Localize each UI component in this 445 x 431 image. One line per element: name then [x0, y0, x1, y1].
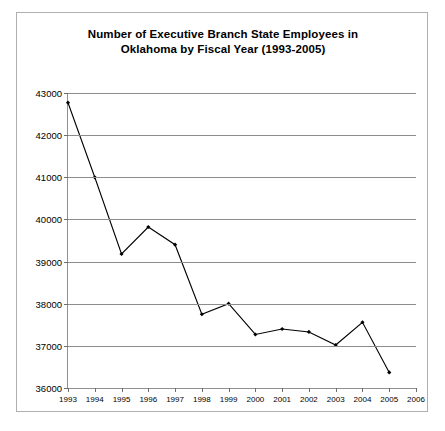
y-axis-tick-label: 40000 — [36, 214, 62, 225]
data-point-marker — [280, 327, 284, 331]
x-axis-tick-label: 1995 — [113, 395, 131, 404]
x-axis-tick — [202, 388, 203, 392]
y-axis-tick — [64, 135, 68, 136]
data-series-line — [68, 93, 416, 388]
x-axis-tick-label: 1996 — [139, 395, 157, 404]
x-axis-tick — [309, 388, 310, 392]
y-axis-tick-label: 38000 — [36, 298, 62, 309]
y-axis-tick — [64, 177, 68, 178]
data-point-marker — [387, 370, 391, 374]
x-axis-tick-label: 2004 — [354, 395, 372, 404]
y-axis-tick — [64, 304, 68, 305]
data-point-marker — [200, 312, 204, 316]
y-axis-tick — [64, 262, 68, 263]
chart-title-line-2: Oklahoma by Fiscal Year (1993-2005) — [17, 42, 429, 57]
y-axis-tick — [64, 219, 68, 220]
gridline-horizontal — [68, 304, 416, 305]
plot-area: 4300042000410004000039000380003700036000… — [67, 93, 416, 389]
x-axis-tick — [175, 388, 176, 392]
gridline-horizontal — [68, 219, 416, 220]
x-axis-tick-label: 2003 — [327, 395, 345, 404]
x-axis-tick — [362, 388, 363, 392]
y-axis-tick-label: 43000 — [36, 88, 62, 99]
x-axis-tick-label: 1994 — [86, 395, 104, 404]
y-axis-tick — [64, 346, 68, 347]
x-axis-tick-label: 1998 — [193, 395, 211, 404]
y-axis-tick-label: 41000 — [36, 172, 62, 183]
x-axis-tick — [416, 388, 417, 392]
gridline-horizontal — [68, 135, 416, 136]
chart-title-line-1: Number of Executive Branch State Employe… — [17, 27, 429, 42]
y-axis-tick-label: 39000 — [36, 256, 62, 267]
series-line-employees — [68, 103, 389, 373]
gridline-horizontal — [68, 346, 416, 347]
x-axis-tick — [122, 388, 123, 392]
x-axis-tick-label: 2000 — [246, 395, 264, 404]
x-axis-tick — [229, 388, 230, 392]
chart-title: Number of Executive Branch State Employe… — [17, 27, 429, 57]
x-axis-tick — [336, 388, 337, 392]
x-axis-tick — [389, 388, 390, 392]
x-axis-tick — [282, 388, 283, 392]
y-axis-tick-label: 37000 — [36, 340, 62, 351]
gridline-horizontal — [68, 262, 416, 263]
x-axis-tick-label: 1993 — [59, 395, 77, 404]
x-axis-tick — [68, 388, 69, 392]
y-axis-tick-label: 42000 — [36, 130, 62, 141]
x-axis-tick-label: 2006 — [407, 395, 425, 404]
x-axis-tick — [255, 388, 256, 392]
y-axis-tick-label: 36000 — [36, 383, 62, 394]
data-point-marker — [66, 101, 70, 105]
x-axis-tick-label: 2005 — [380, 395, 398, 404]
x-axis-tick-label: 1999 — [220, 395, 238, 404]
x-axis-tick-label: 1997 — [166, 395, 184, 404]
data-point-marker — [307, 330, 311, 334]
x-axis-tick — [95, 388, 96, 392]
x-axis-tick-label: 2001 — [273, 395, 291, 404]
chart-container: Number of Executive Branch State Employe… — [16, 12, 428, 412]
gridline-horizontal — [68, 93, 416, 94]
gridline-horizontal — [68, 177, 416, 178]
y-axis-tick — [64, 93, 68, 94]
x-axis-tick-label: 2002 — [300, 395, 318, 404]
x-axis-tick — [148, 388, 149, 392]
